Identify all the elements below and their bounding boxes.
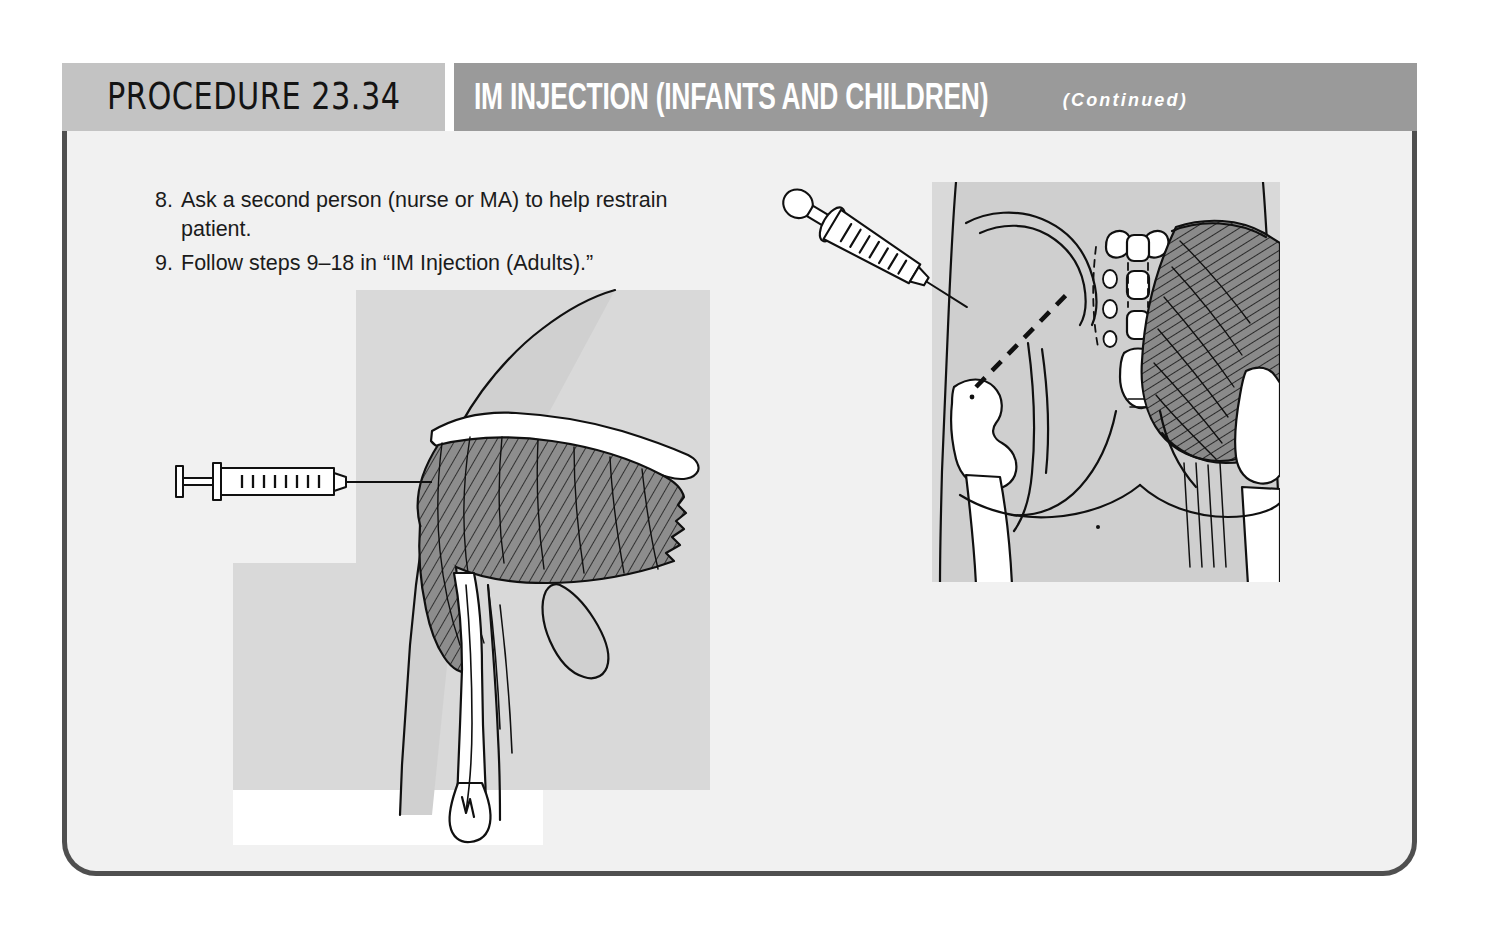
procedure-page: PROCEDURE 23.34 IM INJECTION (INFANTS AN… [0, 0, 1490, 943]
list-item: 8. Ask a second person (nurse or MA) to … [155, 186, 715, 244]
procedure-number-tab: PROCEDURE 23.34 [62, 63, 445, 131]
step-number: 9. [155, 249, 181, 278]
step-text: Follow steps 9–18 in “IM Injection (Adul… [181, 249, 715, 278]
procedure-number-label: PROCEDURE 23.34 [107, 75, 401, 117]
continued-label: (Continued) [1063, 90, 1188, 111]
list-item: 9. Follow steps 9–18 in “IM Injection (A… [155, 249, 715, 278]
procedure-title-bar: IM INJECTION (INFANTS AND CHILDREN) (Con… [454, 63, 1417, 131]
page-title: IM INJECTION (INFANTS AND CHILDREN) [474, 76, 988, 119]
page-header: PROCEDURE 23.34 IM INJECTION (INFANTS AN… [62, 63, 1417, 131]
procedure-steps-list: 8. Ask a second person (nurse or MA) to … [155, 186, 715, 283]
anatomy-drawing [940, 182, 1280, 585]
header-divider [445, 63, 454, 131]
step-text: Ask a second person (nurse or MA) to hel… [181, 186, 715, 244]
gluteal-injection-illustration [780, 175, 1280, 590]
deltoid-injection-illustration [170, 285, 710, 850]
step-number: 8. [155, 186, 181, 244]
